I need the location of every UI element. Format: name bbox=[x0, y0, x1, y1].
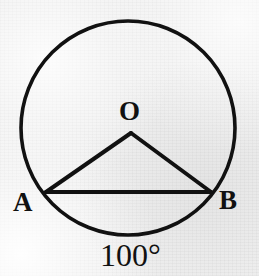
vertex-label-a: A bbox=[13, 189, 33, 216]
circle-outline bbox=[21, 21, 235, 235]
center-point-label-o: O bbox=[119, 98, 140, 125]
angle-measure-label: 100° bbox=[100, 239, 161, 271]
vertex-label-b: B bbox=[219, 187, 237, 214]
radius-line-ob bbox=[131, 133, 211, 192]
geometry-canvas bbox=[0, 0, 259, 276]
geometry-figure: O A B 100° bbox=[0, 0, 259, 276]
radius-line-oa bbox=[46, 133, 131, 192]
